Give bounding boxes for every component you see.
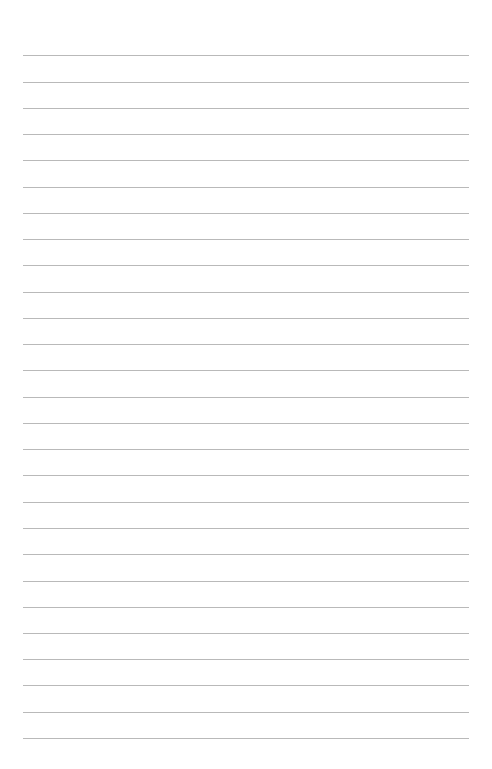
ruled-line — [23, 187, 469, 188]
ruled-line — [23, 685, 469, 686]
ruled-line — [23, 134, 469, 135]
ruled-line — [23, 712, 469, 713]
ruled-line — [23, 370, 469, 371]
ruled-line — [23, 239, 469, 240]
ruled-line — [23, 265, 469, 266]
ruled-line — [23, 502, 469, 503]
ruled-line — [23, 475, 469, 476]
lined-page — [0, 0, 492, 769]
ruled-line — [23, 55, 469, 56]
ruled-line — [23, 160, 469, 161]
ruled-line — [23, 344, 469, 345]
ruled-line — [23, 528, 469, 529]
ruled-line — [23, 213, 469, 214]
ruled-line — [23, 554, 469, 555]
ruled-line — [23, 607, 469, 608]
ruled-line — [23, 449, 469, 450]
ruled-line — [23, 397, 469, 398]
ruled-line — [23, 633, 469, 634]
ruled-line — [23, 738, 469, 739]
ruled-line — [23, 292, 469, 293]
ruled-line — [23, 659, 469, 660]
ruled-line — [23, 581, 469, 582]
ruled-line — [23, 318, 469, 319]
ruled-line — [23, 423, 469, 424]
ruled-line — [23, 108, 469, 109]
ruled-line — [23, 82, 469, 83]
